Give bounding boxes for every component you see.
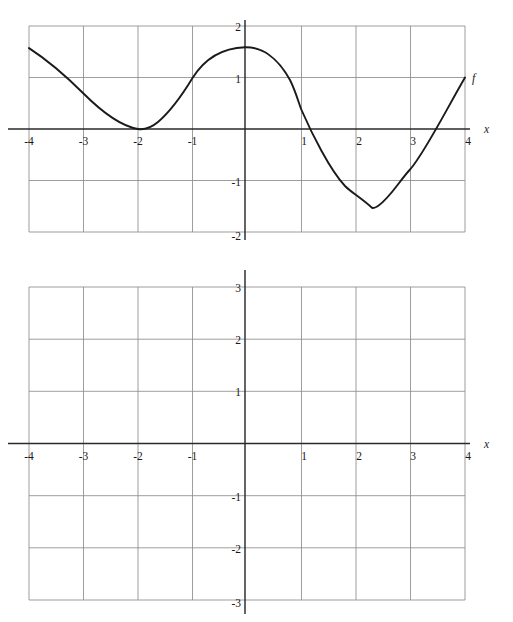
x-tick-2: 2 <box>356 135 362 147</box>
figure-graph-of-f: -4 -3 -2 -1 1 2 3 4 2 1 -1 -2 x f <box>0 0 513 262</box>
y-tick-labels: 2 1 -1 -2 <box>231 21 241 242</box>
x-tick-labels: -4 -3 -2 -1 1 2 3 4 <box>24 450 471 462</box>
y-tick-labels: 3 2 1 -1 -2 -3 <box>231 282 241 609</box>
x-tick--3: -3 <box>79 450 89 462</box>
y-tick-1: 1 <box>235 73 241 85</box>
x-tick--1: -1 <box>188 450 198 462</box>
x-tick-1: 1 <box>301 135 307 147</box>
chart-blank-grid: -4 -3 -2 -1 1 2 3 4 3 2 1 -1 -2 -3 x <box>0 262 513 622</box>
curve-label-f: f <box>472 71 477 85</box>
y-tick--1: -1 <box>231 491 241 503</box>
x-tick-2: 2 <box>356 450 362 462</box>
x-tick-1: 1 <box>301 450 307 462</box>
y-tick-1: 1 <box>235 386 241 398</box>
figure-page: -4 -3 -2 -1 1 2 3 4 2 1 -1 -2 x f <box>0 0 513 622</box>
x-tick--2: -2 <box>133 450 143 462</box>
x-tick-4: 4 <box>465 135 471 147</box>
figure-blank-grid: -4 -3 -2 -1 1 2 3 4 3 2 1 -1 -2 -3 x <box>0 262 513 622</box>
x-tick-3: 3 <box>410 450 416 462</box>
y-tick--2: -2 <box>231 543 241 555</box>
x-tick--4: -4 <box>24 135 34 147</box>
y-tick--2: -2 <box>231 230 241 242</box>
x-tick-4: 4 <box>465 450 471 462</box>
y-tick--1: -1 <box>231 176 241 188</box>
x-tick--4: -4 <box>24 450 34 462</box>
x-tick-labels: -4 -3 -2 -1 1 2 3 4 <box>24 135 471 147</box>
x-tick--2: -2 <box>133 135 143 147</box>
chart-graph-of-f: -4 -3 -2 -1 1 2 3 4 2 1 -1 -2 x f <box>0 0 513 262</box>
x-tick--1: -1 <box>188 135 198 147</box>
y-tick--3: -3 <box>231 597 241 609</box>
y-tick-2: 2 <box>235 21 241 33</box>
x-axis-label: x <box>483 438 490 450</box>
curve-f <box>29 47 465 208</box>
x-tick-3: 3 <box>410 135 416 147</box>
x-axis-label: x <box>483 123 490 135</box>
x-tick--3: -3 <box>79 135 89 147</box>
y-tick-2: 2 <box>235 334 241 346</box>
y-tick-3: 3 <box>235 282 241 294</box>
